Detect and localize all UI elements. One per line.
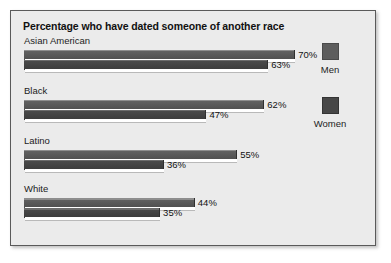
bar-men: 62% <box>24 100 293 110</box>
bar-women: 36% <box>24 160 193 170</box>
legend-item-men: Men <box>299 43 361 75</box>
bar-fill-women <box>24 208 160 218</box>
legend-swatch-icon <box>322 97 339 114</box>
legend-label: Men <box>299 64 361 75</box>
category-label: White <box>24 183 48 194</box>
bar-fill-women <box>24 160 164 170</box>
bar-fill-women <box>24 60 268 70</box>
category-label: Latino <box>24 135 50 146</box>
bar-value-label: 44% <box>198 197 217 208</box>
legend-label: Women <box>299 118 361 129</box>
chart-title: Percentage who have dated someone of ano… <box>23 20 284 32</box>
chart-frame: Percentage who have dated someone of ano… <box>10 10 376 246</box>
bar-men: 55% <box>24 150 266 160</box>
bar-fill-men <box>24 50 295 60</box>
bar-value-label: 62% <box>267 99 286 110</box>
legend-swatch-icon <box>322 43 339 60</box>
bar-women: 63% <box>24 60 297 70</box>
bar-value-label: 63% <box>271 59 290 70</box>
bar-women: 35% <box>24 208 189 218</box>
bar-value-label: 35% <box>163 207 182 218</box>
category-label: Asian American <box>24 35 90 46</box>
bar-value-label: 47% <box>209 109 228 120</box>
bar-value-label: 55% <box>240 149 259 160</box>
bar-fill-women <box>24 110 206 120</box>
legend-item-women: Women <box>299 97 361 129</box>
bar-men: 44% <box>24 198 224 208</box>
bar-fill-men <box>24 150 237 160</box>
chart-legend: MenWomen <box>299 43 361 151</box>
bar-value-label: 36% <box>167 159 186 170</box>
category-label: Black <box>24 85 47 96</box>
bar-women: 47% <box>24 110 235 120</box>
